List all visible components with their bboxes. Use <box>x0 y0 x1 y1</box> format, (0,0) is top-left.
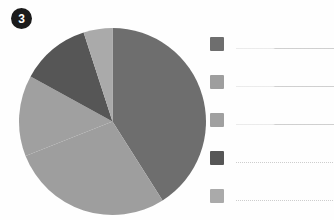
pie-chart-svg <box>18 27 207 216</box>
legend-item-3[interactable] <box>210 112 334 128</box>
legend-label-1 <box>236 37 334 51</box>
legend-swatch-1 <box>210 37 224 51</box>
legend-swatch-4 <box>210 151 224 165</box>
pie-chart <box>18 27 207 216</box>
step-number-label: 3 <box>18 13 25 25</box>
legend-swatch-3 <box>210 113 224 127</box>
legend-label-2 <box>236 75 334 89</box>
legend-item-5[interactable] <box>210 188 334 204</box>
legend-label-5 <box>236 189 334 203</box>
legend-swatch-5 <box>210 189 224 203</box>
chart-legend <box>210 30 334 210</box>
legend-label-3 <box>236 113 334 127</box>
legend-item-2[interactable] <box>210 74 334 90</box>
legend-item-1[interactable] <box>210 36 334 52</box>
pie-slice-group <box>19 28 206 215</box>
legend-swatch-2 <box>210 75 224 89</box>
legend-label-4 <box>236 151 334 165</box>
legend-item-4[interactable] <box>210 150 334 166</box>
step-number-badge: 3 <box>11 8 32 29</box>
slide-canvas: 3 <box>0 0 334 220</box>
